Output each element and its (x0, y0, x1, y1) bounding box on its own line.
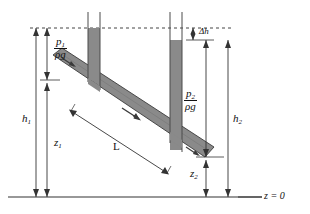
p2-over-rho-g-label: p2 ρg (184, 88, 197, 112)
p1-over-rho-g-label: p1 ρg (54, 36, 67, 60)
h1-label: h1 (22, 113, 31, 124)
z2-label: z2 (190, 168, 198, 179)
pipe-overlay-junctions (88, 78, 182, 148)
h2-label: h2 (233, 113, 242, 124)
h1-dimension (33, 28, 39, 197)
diagram-svg (0, 0, 310, 214)
p1-numerator: p1 (55, 36, 66, 47)
right-piezometer-tube (170, 12, 182, 152)
p1-denominator: ρg (54, 49, 67, 60)
left-piezometer-tube (88, 12, 100, 90)
p2-denominator: ρg (184, 101, 197, 112)
h2-dimension (225, 40, 231, 197)
p2-numerator: p2 (185, 88, 196, 99)
z1-dimension (44, 83, 50, 197)
length-label: L (113, 141, 120, 152)
figure-canvas: p1 ρg p2 ρg Δh h1 z1 z2 h2 L z = 0 (0, 0, 310, 214)
delta-h-label: Δh (199, 27, 209, 36)
z1-label: z1 (54, 137, 62, 148)
z2-dimension (203, 160, 209, 197)
datum-label: z = 0 (264, 191, 285, 201)
